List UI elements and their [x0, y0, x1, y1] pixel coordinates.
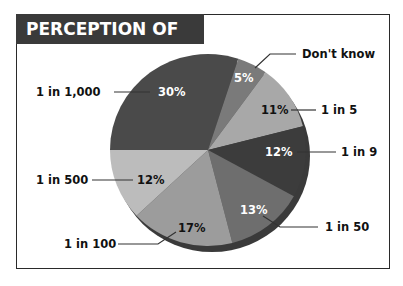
pct-label-dont-know: 5% [234, 71, 254, 85]
pie-chart: 30% 5% 11% 12% 13% 17% 12% 1 in 1,000 Do… [0, 0, 403, 286]
cat-label-1-in-1000: 1 in 1,000 [36, 85, 101, 99]
cat-label-1-in-50: 1 in 50 [325, 220, 369, 234]
pct-label-1-in-500: 12% [137, 173, 165, 187]
cat-label-1-in-9: 1 in 9 [341, 145, 377, 159]
pct-label-1-in-1000: 30% [158, 85, 186, 99]
cat-label-1-in-100: 1 in 100 [64, 237, 116, 251]
cat-label-dont-know: Don't know [302, 47, 375, 61]
pct-label-1-in-50: 13% [240, 203, 268, 217]
cat-label-1-in-5: 1 in 5 [321, 103, 357, 117]
pct-label-1-in-100: 17% [178, 221, 206, 235]
cat-label-1-in-500: 1 in 500 [36, 173, 88, 187]
pct-label-1-in-5: 11% [261, 103, 289, 117]
pct-label-1-in-9: 12% [265, 145, 293, 159]
